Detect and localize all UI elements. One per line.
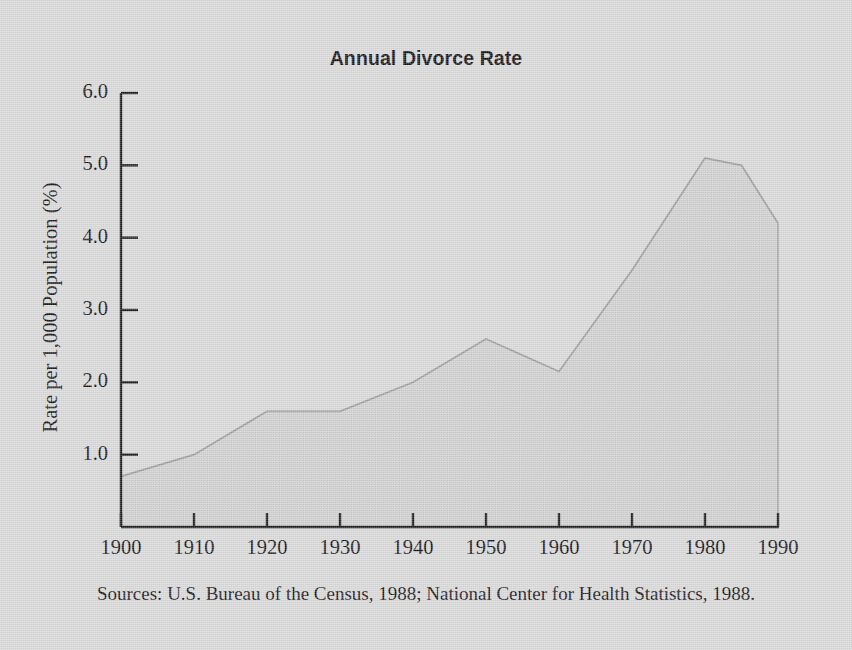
y-tick-label: 2.0: [48, 369, 108, 392]
y-tick-label: 3.0: [48, 297, 108, 320]
x-tick-label: 1900: [81, 536, 161, 559]
x-tick-label: 1960: [519, 536, 599, 559]
y-tick-marks: [121, 93, 138, 455]
x-tick-label: 1920: [227, 536, 307, 559]
x-tick-label: 1910: [154, 536, 234, 559]
y-tick-label: 4.0: [48, 225, 108, 248]
x-tick-label: 1950: [446, 536, 526, 559]
source-note: Sources: U.S. Bureau of the Census, 1988…: [0, 583, 852, 605]
x-tick-label: 1980: [665, 536, 745, 559]
x-tick-label: 1990: [738, 536, 818, 559]
y-tick-label: 5.0: [48, 152, 108, 175]
divorce-rate-figure: Annual Divorce Rate Rate per 1,000 Popul…: [0, 0, 852, 650]
y-tick-label: 1.0: [48, 442, 108, 465]
area-fill: [121, 158, 778, 527]
y-tick-label: 6.0: [48, 80, 108, 103]
x-tick-label: 1970: [592, 536, 672, 559]
x-tick-label: 1940: [373, 536, 453, 559]
x-tick-label: 1930: [300, 536, 380, 559]
